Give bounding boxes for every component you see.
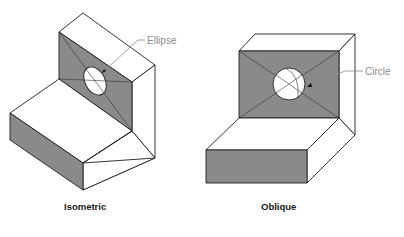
isometric-figure: Ellipse Isometric <box>10 13 177 212</box>
iso-base-right-face-lower <box>83 158 155 190</box>
circle-callout-label: Circle <box>365 66 391 77</box>
oblique-figure: Circle Oblique <box>206 34 391 212</box>
oblique-caption: Oblique <box>261 201 296 212</box>
obl-upright-top-face <box>239 34 355 51</box>
ellipse-callout-label: Ellipse <box>147 35 177 46</box>
projection-comparison-diagram: Ellipse Isometric Circle Oblique <box>0 0 404 237</box>
isometric-caption: Isometric <box>64 201 106 212</box>
obl-base-front-face <box>206 150 307 183</box>
obl-upright-right-face <box>339 34 355 135</box>
